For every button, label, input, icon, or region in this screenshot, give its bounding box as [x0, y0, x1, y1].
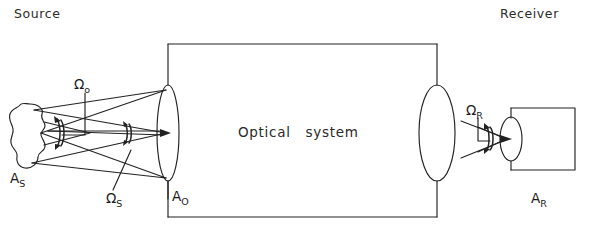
source-area-symbol: A	[10, 170, 19, 186]
exit-aperture-lens	[419, 85, 455, 181]
source-area-label: AS	[10, 172, 25, 188]
omega-s-label: ΩS	[106, 192, 122, 208]
optical-system-diagram: Source Receiver Optical system Ωo ΩS ΩR …	[0, 0, 591, 243]
optics-area-label: AO	[172, 190, 189, 206]
axis-arrow-into-optics	[160, 129, 171, 137]
omega-o-symbol: Ω	[74, 76, 84, 92]
omega-s-leader	[113, 150, 131, 190]
optics-area-subscript: O	[181, 196, 188, 207]
source-area-subscript: S	[19, 178, 25, 189]
omega-o-label: Ωo	[74, 78, 90, 94]
receiver-box	[511, 108, 575, 170]
optical-system-label: Optical system	[238, 126, 359, 140]
omega-s-symbol: Ω	[106, 190, 116, 206]
receiver-area-label: AR	[531, 192, 547, 208]
omega-r-subscript: R	[476, 110, 483, 121]
source-title: Source	[14, 8, 61, 21]
omega-r-label: ΩR	[466, 104, 483, 120]
diagram-canvas	[0, 0, 591, 243]
omega-s-apex-wedge	[44, 122, 90, 145]
solid-angle-omega-s-cone	[48, 131, 163, 135]
omega-o-subscript: o	[84, 84, 90, 95]
receiver-area-subscript: R	[540, 198, 547, 209]
receiver-area-symbol: A	[531, 190, 540, 206]
receiver-axis-arrow	[500, 135, 512, 143]
omega-r-symbol: Ω	[466, 102, 476, 118]
omega-s-subscript: S	[116, 198, 122, 209]
omega-o-arc-marker	[57, 119, 64, 147]
receiver-title: Receiver	[500, 8, 559, 21]
source-blob	[9, 103, 45, 168]
optics-area-symbol: A	[172, 188, 181, 204]
